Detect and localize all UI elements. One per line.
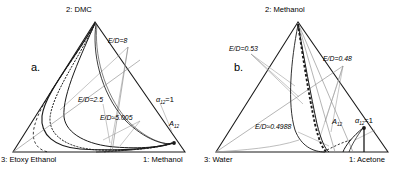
marker-azeotrope-b: A12 (332, 118, 342, 126)
vertex-label-bottom-right-a: 1: Methanol (143, 156, 183, 164)
vertex-label-bottom-right-b: 1: Acetone (349, 156, 385, 164)
marker-alpha-unity-a-sub: 12 (160, 100, 165, 105)
curve-dashed-bottom-b (327, 140, 351, 150)
vertex-label-bottom-left-a: 3: Etoxy Ethanol (1, 156, 56, 164)
annotation-ed-0p53-b: E/D=0.53 (229, 46, 258, 53)
chords-b (216, 23, 353, 152)
annotation-ed-0p4988-b-text: E/D≈0.4988 (255, 123, 291, 130)
marker-alpha-unity-b-eq: =1 (364, 116, 372, 125)
marker-alpha-unity-b-sub: 12 (359, 121, 364, 126)
figure-root: a. 2: DMC 3: Etoxy Ethanol 1: Methanol E… (0, 0, 406, 171)
vertex-label-top-b: 2: Methanol (265, 6, 305, 14)
vertex-label-top-a: 2: DMC (66, 6, 92, 14)
marker-alpha-unity-a-eq: =1 (165, 95, 173, 104)
panel-a-diagram (0, 0, 203, 171)
annotation-ed-0p48-b-text: E/D=0.48 (323, 55, 352, 62)
marker-azeotrope-a: A12 (169, 120, 179, 128)
marker-azeotrope-a-sub: 12 (174, 124, 179, 129)
annotation-ed-0p4988-b: E/D≈0.4988 (255, 124, 291, 131)
annotation-ed-8-a-text: E/D=8 (108, 37, 127, 44)
triangle-b (216, 22, 388, 152)
annotation-ed-2p5-a-text: E/D=2.5 (78, 96, 103, 103)
panel-a-tag: a. (31, 62, 40, 73)
marker-azeotrope-b-sub: 12 (337, 122, 342, 127)
vertex-label-bottom-left-b: 3: Water (204, 156, 232, 164)
triangle-a (13, 22, 185, 152)
marker-alpha-unity-a: α12=1 (156, 96, 174, 104)
panel-a: a. 2: DMC 3: Etoxy Ethanol 1: Methanol E… (0, 0, 203, 171)
panel-b-tag: b. (234, 62, 243, 73)
curve-ed-0p53-b (298, 24, 329, 152)
annotation-ed-8-a: E/D=8 (108, 38, 127, 45)
marker-alpha-unity-b: α12=1 (355, 117, 373, 125)
annotation-ed-5p005-a: E/D≈5.005 (100, 115, 133, 122)
annotation-ed-0p53-b-text: E/D=0.53 (229, 45, 258, 52)
panel-b: b. 2: Methanol 3: Water 1: Acetone E/D=0… (203, 0, 406, 171)
panel-b-diagram (203, 0, 406, 171)
annotation-ed-5p005-a-text: E/D≈5.005 (100, 114, 133, 121)
curve-ed-0p48-b (343, 128, 363, 152)
azeotrope-point-b (362, 126, 366, 130)
azeotrope-point-a (172, 141, 176, 145)
annotation-ed-2p5-a: E/D=2.5 (78, 97, 103, 104)
annotation-ed-0p48-b: E/D=0.48 (323, 56, 352, 63)
leader-lines-b (251, 54, 375, 146)
